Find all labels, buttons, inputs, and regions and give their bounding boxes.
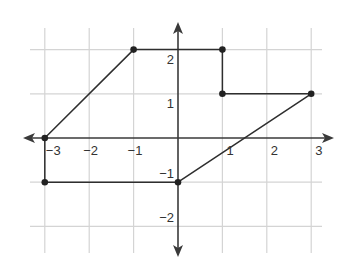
vertex-point <box>130 46 137 53</box>
x-tick-label: 2 <box>271 143 278 158</box>
vertex-point <box>42 135 49 142</box>
vertex-point <box>175 179 182 186</box>
y-tick-label: 2 <box>167 52 174 67</box>
x-tick-label: 3 <box>315 143 322 158</box>
y-tick-label: 1 <box>167 96 174 111</box>
vertex-point <box>42 179 49 186</box>
x-tick-label: −3 <box>46 143 61 158</box>
x-tick-label: −2 <box>83 143 98 158</box>
vertex-point <box>308 91 315 98</box>
vertex-point <box>219 46 226 53</box>
x-tick-label: 1 <box>226 143 233 158</box>
coordinate-plane: −3−2−1123 21−1−2 <box>0 0 350 274</box>
x-axis-tick-labels: −3−2−1123 <box>46 143 323 158</box>
y-tick-label: −2 <box>159 210 174 225</box>
x-tick-label: −1 <box>128 143 143 158</box>
grid-lines <box>30 28 322 253</box>
axes <box>23 22 334 257</box>
vertex-point <box>219 91 226 98</box>
y-tick-label: −1 <box>159 166 174 181</box>
